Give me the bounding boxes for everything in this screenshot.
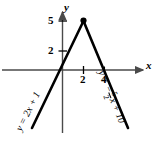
- y-tick-label-2: 2: [48, 45, 54, 56]
- vertex-dot: [80, 17, 86, 23]
- y-tick-label-5: 5: [48, 15, 54, 26]
- y-axis-label: y: [64, 2, 69, 13]
- graph-figure: 5 2 2 4 y x y = 2x + 1 y = −52x + 10: [0, 0, 156, 149]
- x-tick-label-2: 2: [80, 74, 86, 85]
- x-axis-label: x: [146, 60, 152, 71]
- line-left-branch: [32, 21, 84, 128]
